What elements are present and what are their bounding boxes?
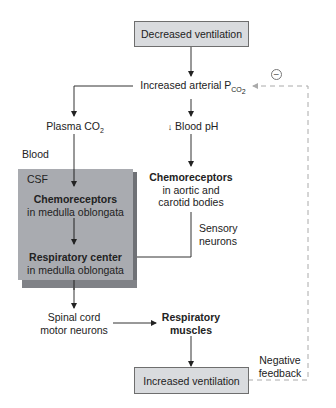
inhibition-minus-icon: −	[271, 69, 282, 80]
pco2-subscript-2: 2	[242, 88, 246, 95]
sensory-neurons-line2: neurons	[199, 235, 238, 248]
central-chemoreceptors-node: Chemoreceptors in medulla oblongata	[18, 193, 133, 218]
peripheral-chemoreceptors-title: Chemoreceptors	[141, 171, 241, 184]
respiratory-center-title: Respiratory center	[18, 251, 133, 264]
plasma-co2-subscript: 2	[100, 127, 104, 134]
increased-ventilation-box: Increased ventilation	[134, 367, 249, 394]
down-arrow-icon: ↓	[168, 122, 173, 132]
central-chemoreceptors-title: Chemoreceptors	[18, 193, 133, 206]
increased-pco2-label: Increased arterial P	[140, 79, 231, 91]
negative-feedback-line1: Negative	[256, 354, 304, 367]
spinal-cord-line2: motor neurons	[34, 324, 114, 337]
pco2-subscript: CO	[231, 86, 242, 93]
spinal-cord-line1: Spinal cord	[34, 311, 114, 324]
spinal-cord-motor-neurons-node: Spinal cord motor neurons	[34, 311, 114, 336]
csf-compartment-label: CSF	[27, 173, 48, 186]
negative-feedback-label: Negative feedback	[256, 354, 304, 379]
decreased-ventilation-box: Decreased ventilation	[134, 21, 249, 47]
respiratory-center-node: Respiratory center in medulla oblongata	[18, 251, 133, 276]
blood-compartment-label: Blood	[22, 148, 49, 161]
sensory-neurons-label: Sensory neurons	[199, 222, 238, 247]
peripheral-chemoreceptors-line2: carotid bodies	[141, 196, 241, 209]
increased-ventilation-label: Increased ventilation	[143, 375, 239, 387]
plasma-co2-label: Plasma CO	[46, 120, 100, 132]
plasma-co2-node: Plasma CO2	[40, 120, 110, 138]
respiratory-muscles-node: Respiratory muscles	[156, 311, 226, 336]
peripheral-chemoreceptors-line1: in aortic and	[141, 184, 241, 197]
negative-feedback-line2: feedback	[256, 367, 304, 380]
increased-pco2-node: Increased arterial PCO2	[139, 79, 247, 99]
respiratory-center-location: in medulla oblongata	[18, 264, 133, 277]
central-chemoreceptors-location: in medulla oblongata	[18, 206, 133, 219]
decreased-ventilation-label: Decreased ventilation	[141, 28, 242, 40]
respiratory-muscles-line1: Respiratory	[156, 311, 226, 324]
sensory-neurons-line1: Sensory	[199, 222, 238, 235]
blood-ph-label: Blood pH	[175, 120, 218, 132]
blood-ph-node: ↓ Blood pH	[163, 120, 223, 134]
peripheral-chemoreceptors-node: Chemoreceptors in aortic and carotid bod…	[141, 171, 241, 209]
respiratory-muscles-line2: muscles	[156, 324, 226, 337]
